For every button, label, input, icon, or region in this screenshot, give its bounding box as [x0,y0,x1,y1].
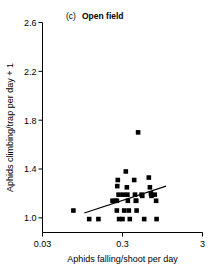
data-point-marker [142,217,147,222]
data-point-marker [124,169,129,174]
data-point-marker [127,208,132,213]
y-tick-label: 1.0 [24,213,37,223]
data-point-marker [71,208,76,213]
data-point-marker [121,192,126,197]
data-point-marker [154,198,159,203]
data-point-marker [134,198,139,203]
data-point-marker [132,178,137,183]
data-point-marker [96,217,101,222]
data-point-marker [122,208,127,213]
data-point-marker [115,198,120,203]
data-point-marker [115,184,120,189]
data-point-marker [126,198,131,203]
data-point-marker [115,208,120,213]
x-tick-label: 0.03 [34,239,52,249]
data-point-marker [87,217,92,222]
y-tick-label: 2.2 [24,67,37,77]
data-point-marker [154,217,159,222]
x-axis-label: Aphids falling/shoot per day [67,254,178,264]
data-point-marker [133,192,138,197]
data-point-marker [125,185,130,190]
x-tick-label: 3 [200,239,205,249]
data-point-marker [148,185,153,190]
data-point-marker [127,217,132,222]
y-tick-label: 1.4 [24,164,37,174]
y-tick-label: 1.8 [24,116,37,126]
data-point-marker [116,192,121,197]
data-point-marker [152,192,157,197]
y-tick-label: 2.6 [24,18,37,28]
panel-title: Open field [82,11,124,21]
data-point-marker [134,208,139,213]
scatter-plot-canvas: 1.01.41.82.22.60.030.33(c)Open fieldAphi… [0,0,218,270]
panel-letter: (c) [66,11,76,21]
data-point-marker [140,194,145,199]
data-point-marker [120,217,125,222]
x-tick-label: 0.3 [116,239,129,249]
data-point-marker [125,192,130,197]
data-point-marker [115,178,120,183]
chart-figure: 1.01.41.82.22.60.030.33(c)Open fieldAphi… [0,0,218,270]
y-axis-label: Aphids climbing/trap per day + 1 [5,63,15,192]
data-point-marker [136,130,141,135]
data-point-marker [147,175,152,180]
